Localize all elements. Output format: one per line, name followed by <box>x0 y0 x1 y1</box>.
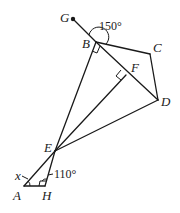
label-e: E <box>43 140 52 155</box>
label-g: G <box>60 10 70 25</box>
angle-label-x: x <box>14 168 21 183</box>
point-g-dot <box>71 17 75 21</box>
segment-ed <box>55 100 158 151</box>
label-b: B <box>82 36 90 51</box>
label-f: F <box>130 60 140 75</box>
angle-label-110: 110° <box>54 167 77 181</box>
segment-bd <box>96 42 158 100</box>
geometry-diagram: G B C D F E A H 150° x 110° <box>0 0 180 213</box>
label-d: D <box>160 94 171 109</box>
segment-bc <box>96 42 150 54</box>
label-h: H <box>41 188 52 203</box>
segment-ef <box>55 75 126 151</box>
label-a: A <box>12 188 21 203</box>
segment-be <box>55 42 96 151</box>
angle-arc-x <box>28 181 30 186</box>
leader-x <box>22 176 28 179</box>
right-angle-marker-f <box>116 70 121 80</box>
angle-label-150: 150° <box>99 19 122 33</box>
label-c: C <box>153 40 162 55</box>
